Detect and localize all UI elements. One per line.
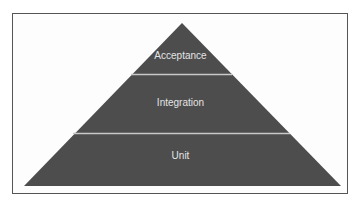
layer-label-unit: Unit — [0, 150, 361, 162]
layer-label-acceptance: Acceptance — [0, 50, 361, 62]
layer-label-integration: Integration — [0, 97, 361, 109]
